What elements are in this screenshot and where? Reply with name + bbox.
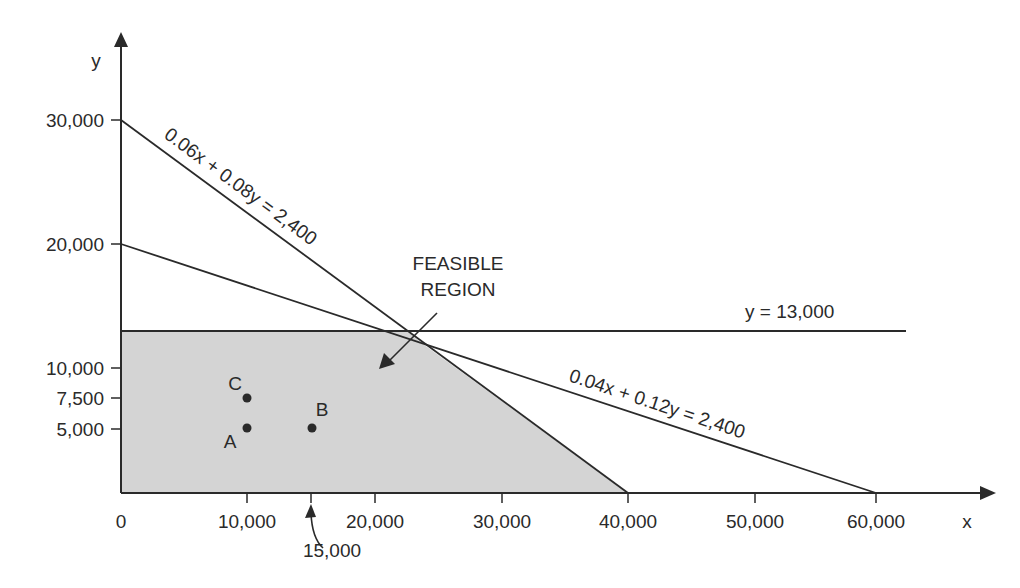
y-tick-label-5000: 5,000 (56, 419, 104, 440)
y-ticks (111, 120, 121, 429)
point-a (243, 424, 252, 433)
constraint-3-label: y = 13,000 (745, 301, 834, 322)
point-a-label: A (224, 431, 237, 452)
x-tick-label-60000: 60,000 (847, 511, 905, 532)
feasible-region-label-line1: FEASIBLE (413, 253, 504, 274)
constraint-1-label: 0.06x + 0.08y = 2,400 (161, 123, 321, 249)
x-tick-label-50000: 50,000 (726, 511, 784, 532)
x-axis-label: x (962, 511, 972, 532)
y-tick-label-10000: 10,000 (46, 358, 104, 379)
point-b-label: B (316, 399, 329, 420)
x-tick-label-30000: 30,000 (473, 511, 531, 532)
feasible-region-label-line2: REGION (421, 279, 496, 300)
x-ticks (247, 493, 876, 503)
y-tick-label-7500: 7,500 (56, 388, 104, 409)
x-tick-label-0: 0 (116, 511, 127, 532)
y-tick-label-20000: 20,000 (46, 234, 104, 255)
point-b (308, 424, 317, 433)
x15000-arrow-head-icon (305, 504, 316, 518)
point-c-label: C (228, 373, 242, 394)
linear-programming-chart: 0 10,000 20,000 30,000 40,000 50,000 60,… (0, 0, 1020, 588)
point-c (243, 394, 252, 403)
y-tick-label-30000: 30,000 (46, 110, 104, 131)
y-axis-label: y (91, 50, 101, 71)
x-tick-label-15000: 15,000 (303, 540, 361, 561)
x-tick-label-40000: 40,000 (599, 511, 657, 532)
constraint-2-label: 0.04x + 0.12y = 2,400 (567, 365, 748, 443)
x-tick-label-20000: 20,000 (346, 511, 404, 532)
feasible-region (121, 331, 628, 493)
x-axis-arrow-icon (980, 486, 996, 500)
y-axis-arrow-icon (114, 32, 128, 47)
x-tick-label-10000: 10,000 (218, 511, 276, 532)
